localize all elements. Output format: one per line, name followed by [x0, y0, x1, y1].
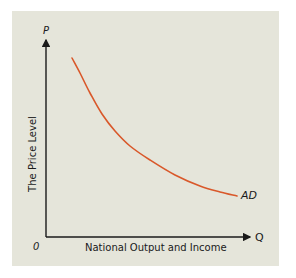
- ad-curve: [72, 58, 237, 196]
- ad-curve-label: AD: [241, 190, 257, 201]
- x-axis-title: National Output and Income: [85, 243, 215, 253]
- y-axis-title: The Price Level: [28, 116, 38, 192]
- x-axis-symbol: Q: [255, 232, 264, 243]
- origin-label: 0: [33, 242, 39, 252]
- y-axis-symbol: P: [43, 26, 49, 36]
- chart-plot-area: [0, 0, 296, 278]
